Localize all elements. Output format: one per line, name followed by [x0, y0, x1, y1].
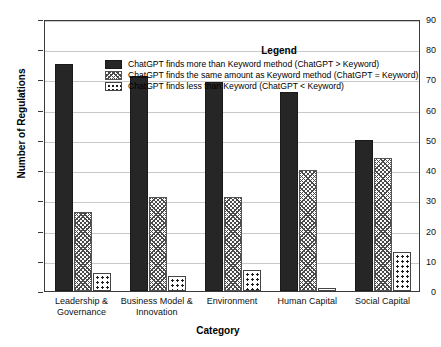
- y-tick-mark-10: [38, 262, 43, 263]
- y-tick-mark-80: [38, 50, 43, 51]
- y-tick-mark-20: [38, 232, 43, 233]
- bar: [374, 158, 392, 291]
- legend-item: ChatGPT finds less than Keyword (ChatGPT…: [105, 81, 441, 91]
- x-tick-label-3: Human Capital: [270, 296, 345, 307]
- legend-entries: ChatGPT finds more than Keyword method (…: [105, 59, 441, 91]
- bar: [299, 170, 317, 291]
- bar: [243, 270, 261, 291]
- gridline-60: [45, 112, 419, 113]
- y-tick-mark-60: [38, 111, 43, 112]
- bar: [168, 276, 186, 291]
- legend: Legend ChatGPT finds more than Keyword m…: [105, 45, 441, 92]
- bar: [280, 92, 298, 291]
- x-tick-label-line: Governance: [44, 307, 119, 318]
- x-tick-label-line: Social Capital: [345, 296, 420, 307]
- legend-item-label: ChatGPT finds the same amount as Keyword…: [128, 70, 418, 80]
- bar: [130, 76, 148, 291]
- y-tick-mark-90: [38, 20, 43, 21]
- x-tick-label-line: Leadership &: [44, 296, 119, 307]
- x-tick-label-line: Innovation: [119, 307, 194, 318]
- x-tick-label-line: Environment: [194, 296, 269, 307]
- x-tick-label-line: Business Model &: [119, 296, 194, 307]
- y-tick-mark-50: [38, 141, 43, 142]
- bar: [93, 273, 111, 291]
- bar: [74, 212, 92, 291]
- y-tick-mark-40: [38, 171, 43, 172]
- x-tick-label-2: Environment: [194, 296, 269, 307]
- plot-area: Legend ChatGPT finds more than Keyword m…: [44, 20, 420, 292]
- bar: [55, 64, 73, 291]
- x-tick-label-line: Human Capital: [270, 296, 345, 307]
- y-axis-title: Number of Regulations: [16, 49, 27, 199]
- y-tick-mark-0: [38, 292, 43, 293]
- y-tick-mark-70: [38, 80, 43, 81]
- y-tick-mark-30: [38, 201, 43, 202]
- bar: [393, 252, 411, 291]
- legend-item: ChatGPT finds the same amount as Keyword…: [105, 70, 441, 80]
- x-axis-title: Category: [0, 325, 436, 336]
- x-tick-label-1: Business Model &Innovation: [119, 296, 194, 318]
- bar: [205, 82, 223, 291]
- legend-swatch-dots-icon: [105, 82, 122, 91]
- bar: [149, 197, 167, 291]
- legend-swatch-hatch-icon: [105, 71, 122, 80]
- x-tick-label-0: Leadership &Governance: [44, 296, 119, 318]
- bar: [224, 197, 242, 291]
- legend-title: Legend: [105, 45, 441, 56]
- x-tick-label-4: Social Capital: [345, 296, 420, 307]
- legend-swatch-solid-icon: [105, 60, 122, 69]
- bar: [355, 140, 373, 291]
- legend-item-label: ChatGPT finds less than Keyword (ChatGPT…: [128, 81, 344, 91]
- bar: [318, 288, 336, 291]
- gridline-90: [45, 21, 419, 22]
- legend-item-label: ChatGPT finds more than Keyword method (…: [128, 59, 379, 69]
- legend-item: ChatGPT finds more than Keyword method (…: [105, 59, 441, 69]
